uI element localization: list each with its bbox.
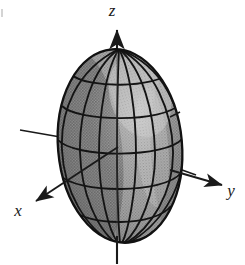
y-axis-label: y	[225, 181, 235, 200]
z-axis-label: z	[108, 1, 116, 20]
x-axis-label: x	[13, 201, 22, 220]
ellipsoid-solid	[46, 40, 212, 262]
scan-artifact	[1, 9, 3, 17]
ellipsoid-figure-svg: z y x	[0, 0, 245, 265]
ellipsoid-shading	[46, 40, 212, 262]
figure-root: z y x	[0, 0, 245, 265]
